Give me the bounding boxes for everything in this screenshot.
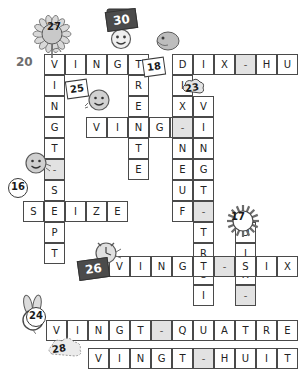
clue-number-20[interactable]: 20 — [16, 55, 33, 69]
crossword-cell[interactable]: N — [193, 138, 214, 159]
crossword-cell[interactable]: - — [235, 54, 256, 75]
crossword-cell[interactable]: I — [193, 285, 214, 306]
crossword-cell[interactable]: G — [107, 54, 128, 75]
crossword-cell[interactable]: E — [128, 159, 149, 180]
crossword-cell[interactable]: I — [65, 201, 86, 222]
clue-number-17[interactable]: 17 — [229, 208, 247, 226]
crossword-cell[interactable]: V — [88, 348, 109, 369]
clue-number-30[interactable]: 30 — [105, 8, 138, 32]
crossword-cell[interactable]: I — [130, 256, 151, 277]
crossword-cell[interactable]: R — [128, 75, 149, 96]
crossword-cell[interactable]: Q — [172, 320, 193, 341]
crossword-cell[interactable]: N — [44, 96, 65, 117]
crossword-cell[interactable]: U — [235, 348, 256, 369]
crossword-cell[interactable]: D — [172, 54, 193, 75]
crossword-cell[interactable]: T — [193, 180, 214, 201]
crossword-cell[interactable]: H — [214, 348, 235, 369]
crossword-cell[interactable]: G — [109, 320, 130, 341]
crossword-cell[interactable]: I — [193, 54, 214, 75]
crossword-cell[interactable]: - — [172, 117, 193, 138]
crossword-cell[interactable]: I — [193, 117, 214, 138]
crossword-cell[interactable]: G — [193, 159, 214, 180]
crossword-cell[interactable]: I — [109, 348, 130, 369]
crossword-cell[interactable]: - — [193, 201, 214, 222]
crossword-cell[interactable]: S — [235, 256, 256, 277]
clue-number-25[interactable]: 25 — [65, 79, 89, 100]
crossword-cell[interactable]: N — [88, 320, 109, 341]
clue-number-24[interactable]: 24 — [26, 307, 46, 327]
crossword-cell[interactable]: X — [277, 256, 298, 277]
crossword-cell[interactable]: E — [172, 159, 193, 180]
clue-number-18[interactable]: 18 — [142, 57, 166, 78]
crossword-cell[interactable]: P — [44, 222, 65, 243]
crossword-cell[interactable]: N — [172, 138, 193, 159]
crossword-cell[interactable]: A — [214, 320, 235, 341]
crossword-cell[interactable]: N — [86, 54, 107, 75]
crossword-cell[interactable]: X — [172, 96, 193, 117]
crossword-cell[interactable]: G — [151, 348, 172, 369]
crossword-cell[interactable]: Z — [86, 201, 107, 222]
crossword-cell[interactable]: U — [277, 54, 298, 75]
crossword-cell[interactable]: G — [172, 256, 193, 277]
crossword-cell[interactable]: T — [277, 348, 298, 369]
crossword-cell[interactable]: V — [86, 117, 107, 138]
crossword-cell[interactable]: I — [256, 256, 277, 277]
crossword-cell[interactable]: G — [44, 117, 65, 138]
crossword-cell[interactable]: I — [44, 75, 65, 96]
crossword-cell[interactable]: T — [235, 320, 256, 341]
crossword-cell[interactable]: E — [107, 201, 128, 222]
crossword-cell[interactable]: N — [128, 117, 149, 138]
crossword-cell[interactable]: S — [23, 201, 44, 222]
crossword-cell[interactable]: T — [172, 348, 193, 369]
crossword-cell[interactable]: S — [44, 180, 65, 201]
clue-number-26[interactable]: 26 — [77, 257, 110, 281]
crossword-cell[interactable]: T — [44, 243, 65, 264]
crossword-cell[interactable]: U — [193, 320, 214, 341]
crossword-cell[interactable]: G — [149, 117, 170, 138]
crossword-cell[interactable]: V — [193, 96, 214, 117]
crossword-cell[interactable]: H — [256, 54, 277, 75]
clue-number-27[interactable]: 27 — [45, 18, 63, 36]
crossword-cell[interactable]: T — [130, 320, 151, 341]
crossword-cell[interactable]: - — [151, 320, 172, 341]
crossword-cell[interactable]: F — [172, 201, 193, 222]
crossword-cell[interactable]: T — [128, 138, 149, 159]
crossword-cell[interactable]: - — [193, 348, 214, 369]
crossword-cell[interactable]: N — [151, 256, 172, 277]
clue-number-16[interactable]: 16 — [8, 178, 28, 198]
crossword-cell[interactable]: T — [193, 222, 214, 243]
crossword-cell[interactable]: E — [44, 201, 65, 222]
crossword-cell[interactable]: X — [214, 54, 235, 75]
crossword-cell[interactable]: N — [130, 348, 151, 369]
crossword-cell[interactable]: E — [128, 96, 149, 117]
crossword-cell[interactable]: R — [256, 320, 277, 341]
crossword-cell[interactable]: I — [107, 117, 128, 138]
crossword-cell[interactable]: T — [193, 256, 214, 277]
crossword-cell[interactable]: - — [214, 256, 235, 277]
crossword-cell[interactable]: E — [277, 320, 298, 341]
crossword-cell[interactable]: U — [172, 180, 193, 201]
crossword-cell[interactable]: I — [256, 348, 277, 369]
crossword-cell[interactable]: - — [235, 285, 256, 306]
